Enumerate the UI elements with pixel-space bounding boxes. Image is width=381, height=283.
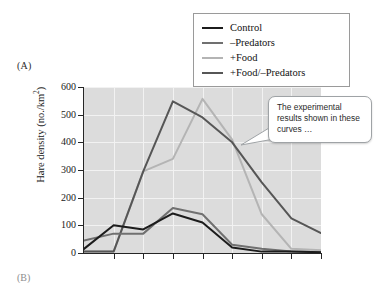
x-tick-mark [321, 254, 322, 259]
y-tick-label: 300 [48, 164, 76, 175]
legend-swatch-icon [202, 57, 223, 59]
callout-bubble: The experimental results shown in these … [268, 96, 372, 143]
y-tick-mark [78, 198, 84, 199]
y-tick-mark [78, 87, 84, 88]
callout-text: The experimental results shown in these … [277, 102, 364, 136]
y-tick-label: 0 [48, 247, 76, 258]
legend-item-1[interactable]: –Predators [202, 35, 340, 50]
y-axis-title-exponent: 2 [32, 90, 41, 94]
legend-item-2[interactable]: +Food [202, 50, 340, 65]
legend-item-3[interactable]: +Food/–Predators [202, 65, 340, 80]
y-tick-mark [78, 115, 84, 116]
legend-item-label: +Food/–Predators [230, 67, 305, 78]
x-tick-mark [203, 254, 204, 259]
y-tick-mark [78, 253, 84, 254]
legend-item-label: Control [230, 22, 262, 33]
legend-item-label: –Predators [230, 37, 275, 48]
legend-swatch-icon [202, 72, 223, 74]
x-tick-mark [173, 254, 174, 259]
x-tick-mark [143, 254, 144, 259]
y-tick-label: 200 [48, 192, 76, 203]
y-tick-label: 400 [48, 136, 76, 147]
y-tick-mark [78, 170, 84, 171]
y-tick-mark [78, 225, 84, 226]
panel-label-b: (B) [17, 272, 30, 283]
x-tick-mark [262, 254, 263, 259]
legend-item-0[interactable]: Control [202, 20, 340, 35]
series-line-1 [84, 208, 321, 252]
y-axis-tick-labels: 6005004003002001000 [44, 0, 76, 282]
legend-item-label: +Food [230, 52, 258, 63]
y-tick-label: 600 [48, 81, 76, 92]
x-tick-mark [114, 254, 115, 259]
panel-label-a: (A) [17, 60, 31, 71]
y-tick-mark [78, 142, 84, 143]
y-tick-label: 100 [48, 219, 76, 230]
legend-swatch-icon [202, 42, 223, 44]
x-tick-mark [232, 254, 233, 259]
x-tick-mark [291, 254, 292, 259]
legend: Control–Predators+Food+Food/–Predators [193, 13, 350, 87]
y-tick-label: 500 [48, 109, 76, 120]
legend-swatch-icon [202, 27, 223, 29]
